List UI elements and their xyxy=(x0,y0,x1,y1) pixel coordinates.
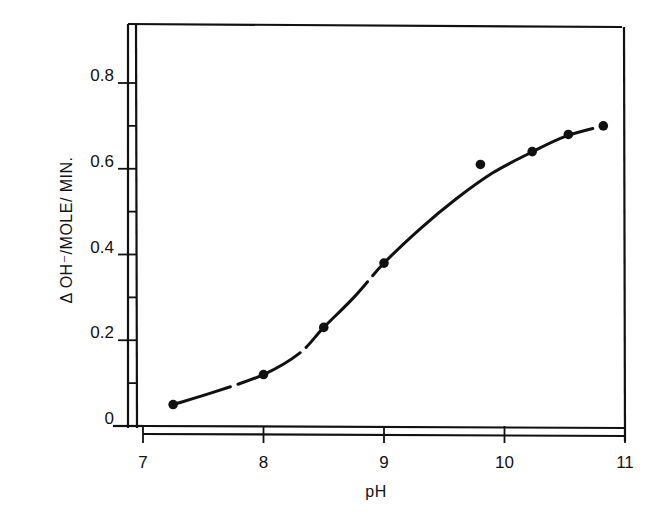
data-point xyxy=(319,323,329,333)
y-tick-label: 0 xyxy=(105,409,114,428)
data-point xyxy=(168,400,178,410)
y-tick-label: 0.2 xyxy=(90,323,114,342)
x-axis-tick-labels: 7891011 xyxy=(138,453,634,472)
y-tick-label: 0.6 xyxy=(90,152,114,171)
x-tick-label: 9 xyxy=(379,453,388,472)
x-tick-label: 10 xyxy=(495,453,514,472)
y-tick-label: 0.4 xyxy=(90,238,114,257)
y-axis-tick-labels: 00.20.40.60.8 xyxy=(90,66,114,428)
data-point xyxy=(259,370,269,380)
data-point xyxy=(527,147,537,157)
x-tick-label: 8 xyxy=(259,453,268,472)
plot-frame xyxy=(113,24,625,441)
x-axis-label: pH xyxy=(365,483,386,500)
data-point xyxy=(476,160,486,170)
x-tick-label: 7 xyxy=(138,453,147,472)
y-tick-label: 0.8 xyxy=(90,66,114,85)
data-point xyxy=(599,121,609,131)
data-point xyxy=(379,258,389,268)
chart: 00.20.40.60.8 7891011 pH Δ OH⁻/MOLE/ MIN… xyxy=(0,0,663,521)
x-tick-label: 11 xyxy=(616,453,634,472)
data-points xyxy=(168,121,608,409)
y-axis-label: Δ OH⁻/MOLE/ MIN. xyxy=(58,156,75,303)
data-point xyxy=(564,130,574,140)
